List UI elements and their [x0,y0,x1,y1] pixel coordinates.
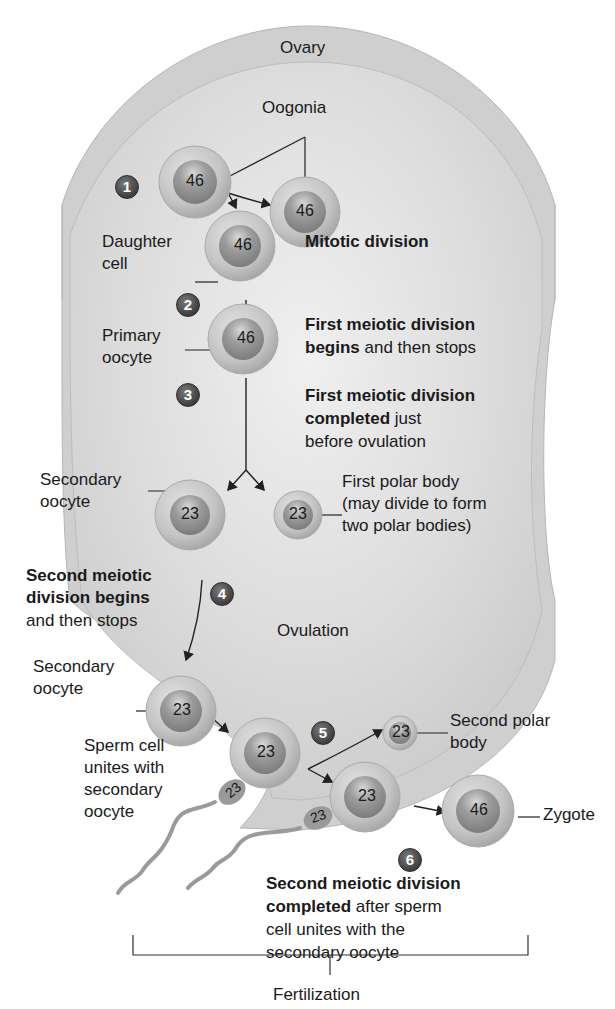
second-polar-body-label-line1: Second polar [450,711,550,731]
secondary-oocyte-b-label-line2: oocyte [33,679,83,699]
first-meiotic-completed-line2: completed just [305,409,421,429]
mitotic-division-description: Mitotic division [305,232,429,252]
second-polar-body-count: 23 [386,723,416,741]
ovulation-label: Ovulation [277,621,349,641]
oogonium-2-count: 46 [290,202,320,220]
sperm-label-line1: Sperm cell [84,736,164,756]
oocyte-with-sperm-count: 23 [251,743,281,761]
first-meiotic-completed-line1: First meiotic division [305,386,475,406]
oogonium-1-count: 46 [180,172,210,190]
second-meiotic-completed-line2: completed after sperm [266,897,442,917]
secondary-oocyte-b-label-line1: Secondary [33,657,114,677]
second-meiotic-completed-line3: cell unites with the [266,920,405,940]
zygote-label: Zygote [543,805,595,825]
second-meiotic-begins-line3: and then stops [26,611,138,631]
step-1-badge: 1 [115,175,139,199]
secondary-oocyte-a-count: 23 [175,505,205,523]
first-meiotic-completed-line3: before ovulation [305,432,426,452]
sperm-label-line4: oocyte [84,802,134,822]
secondary-oocyte-b-count: 23 [167,701,197,719]
first-meiotic-begins-line2: begins and then stops [305,338,476,358]
first-polar-body-count: 23 [283,505,313,523]
ovary-label: Ovary [280,38,325,58]
fertilization-label: Fertilization [273,985,360,1005]
daughter-cell-label-line1: Daughter [102,232,172,252]
step-6-badge: 6 [398,848,422,872]
second-meiotic-completed-line4: secondary oocyte [266,943,399,963]
first-meiotic-begins-line1: First meiotic division [305,315,475,335]
oogonia-label: Oogonia [262,98,326,118]
primary-oocyte-label-line2: oocyte [102,348,152,368]
sperm-label-line3: secondary [84,780,162,800]
step-2-badge: 2 [176,293,200,317]
second-polar-body-label-line2: body [450,733,487,753]
sperm-label-line2: unites with [84,758,164,778]
primary-oocyte-label-line1: Primary [102,326,161,346]
first-polar-body-label-line2: (may divide to form [342,494,487,514]
secondary-oocyte-a-label-line2: oocyte [40,492,90,512]
step-4-badge: 4 [210,582,234,606]
first-polar-body-label-line3: two polar bodies) [342,516,471,536]
step-5-badge: 5 [311,721,335,745]
secondary-oocyte-a-label-line1: Secondary [40,470,121,490]
step-3-badge: 3 [176,383,200,407]
oocyte-completed-count: 23 [352,787,382,805]
second-meiotic-begins-line2: division begins [26,588,150,608]
first-polar-body-label-line1: First polar body [342,472,459,492]
second-meiotic-completed-line1: Second meiotic division [266,874,461,894]
daughter-cell-count: 46 [228,236,258,254]
second-meiotic-begins-line1: Second meiotic [26,566,152,586]
daughter-cell-label-line2: cell [102,254,128,274]
zygote-count: 46 [464,801,494,819]
primary-oocyte-count: 46 [231,329,261,347]
